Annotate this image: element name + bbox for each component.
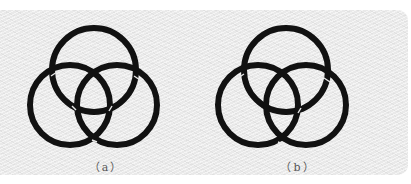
three-rings-diagram-b <box>198 10 398 160</box>
figure-a: （a） <box>6 10 206 175</box>
figure-b: （b） <box>198 10 398 175</box>
figure-panel: （a） （b） <box>0 10 408 175</box>
three-rings-diagram-a <box>6 10 206 160</box>
caption-a: （a） <box>6 158 206 174</box>
caption-b: （b） <box>198 158 398 174</box>
